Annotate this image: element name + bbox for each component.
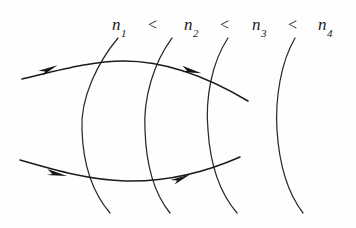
light-rays-group — [20, 61, 248, 181]
diagram-canvas — [0, 0, 356, 228]
ray-arrowheads-group — [39, 65, 202, 184]
refraction-figure: n1 < n2 < n3 < n4 — [0, 0, 356, 228]
interface-arc-n3 — [207, 38, 237, 213]
interface-arc-n4 — [277, 38, 303, 213]
interface-arcs-group — [82, 38, 303, 213]
arrowhead-upper-right — [182, 66, 202, 73]
ray-lower — [20, 157, 240, 181]
